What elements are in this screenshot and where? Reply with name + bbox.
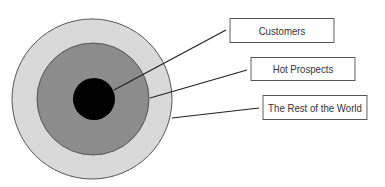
- label-customers-text: Customers: [259, 25, 306, 37]
- label-rest-of-world: The Rest of the World: [263, 95, 368, 120]
- label-customers: Customers: [230, 18, 335, 43]
- label-hot-prospects: Hot Prospects: [251, 57, 356, 81]
- inner-core-customers: [73, 78, 115, 120]
- label-rest-of-world-text: The Rest of the World: [268, 102, 362, 114]
- leader-line-rest-of-world: [172, 108, 259, 118]
- label-hot-prospects-text: Hot Prospects: [273, 63, 334, 75]
